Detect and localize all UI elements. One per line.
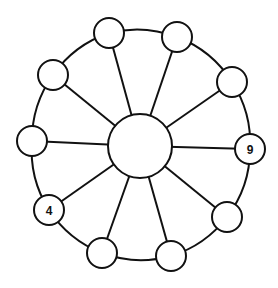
node-9 — [17, 126, 47, 156]
node-circle — [162, 22, 192, 52]
node-circle — [38, 60, 68, 90]
node-circle — [212, 202, 242, 232]
node-circle — [217, 67, 247, 97]
node-label: 4 — [46, 204, 53, 218]
node-8: 4 — [34, 195, 64, 225]
node-circle — [94, 18, 124, 48]
wheel-diagram: 94 — [0, 0, 278, 288]
node-label: 9 — [247, 143, 254, 157]
node-4: 9 — [235, 134, 265, 164]
node-7 — [87, 238, 117, 268]
node-circle — [87, 238, 117, 268]
node-5 — [212, 202, 242, 232]
node-6 — [156, 241, 186, 271]
node-2 — [162, 22, 192, 52]
node-3 — [217, 67, 247, 97]
node-circle — [156, 241, 186, 271]
node-circle — [17, 126, 47, 156]
hub-circle — [108, 114, 172, 178]
node-1 — [94, 18, 124, 48]
hub-node — [108, 114, 172, 178]
node-10 — [38, 60, 68, 90]
